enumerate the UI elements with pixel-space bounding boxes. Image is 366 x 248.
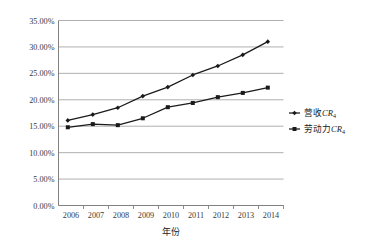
data-point-marker <box>141 116 145 120</box>
legend-marker <box>293 127 297 131</box>
legend-label: 劳动力CR4 <box>304 123 345 135</box>
x-tick-label: 2011 <box>188 211 204 220</box>
data-point-marker <box>166 105 170 109</box>
x-tick-label: 2012 <box>213 211 229 220</box>
x-axis-title: 年份 <box>162 226 180 237</box>
data-point-marker <box>216 95 220 99</box>
x-tick-label: 2007 <box>88 211 104 220</box>
legend-label: 营收CR4 <box>304 107 336 119</box>
y-tick-label: 25.00% <box>29 69 54 78</box>
line-chart: 0.00%5.00%10.00%15.00%20.00%25.00%30.00%… <box>0 0 366 248</box>
x-tick-label: 2009 <box>138 211 154 220</box>
data-point-marker <box>116 123 120 127</box>
x-tick-label: 2014 <box>263 211 279 220</box>
x-axis-tick-labels: 200620072008200920102011201220132014 <box>63 211 279 220</box>
y-tick-label: 30.00% <box>29 43 54 52</box>
data-point-marker <box>266 86 270 90</box>
y-tick-label: 15.00% <box>29 122 54 131</box>
data-point-marker <box>91 122 95 126</box>
x-tick-label: 2010 <box>163 211 179 220</box>
x-tick-label: 2008 <box>113 211 129 220</box>
y-tick-label: 5.00% <box>33 175 54 184</box>
chart-canvas: 0.00%5.00%10.00%15.00%20.00%25.00%30.00%… <box>0 0 366 248</box>
data-point-marker <box>191 101 195 105</box>
data-point-marker <box>241 91 245 95</box>
x-tick-label: 2013 <box>238 211 254 220</box>
y-tick-label: 10.00% <box>29 149 54 158</box>
data-point-marker <box>66 125 70 129</box>
y-tick-label: 35.00% <box>29 17 54 26</box>
y-tick-label: 0.00% <box>33 202 54 211</box>
y-tick-label: 20.00% <box>29 96 54 105</box>
x-tick-label: 2006 <box>63 211 79 220</box>
x-axis-title-text: 年份 <box>162 226 180 237</box>
